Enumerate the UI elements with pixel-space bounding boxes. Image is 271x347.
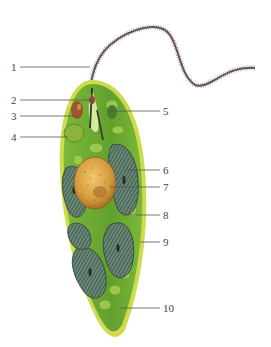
euglena-diagram <box>0 0 271 347</box>
nucleus <box>74 157 116 209</box>
label-4: 4 <box>11 132 17 143</box>
label-5: 5 <box>163 106 169 117</box>
label-7: 7 <box>163 182 169 193</box>
label-6: 6 <box>163 165 169 176</box>
label-3: 3 <box>11 111 17 122</box>
label-8: 8 <box>163 210 169 221</box>
nucleolus <box>93 186 107 198</box>
contractile-vacuole <box>64 124 84 142</box>
label-2: 2 <box>11 95 17 106</box>
label-10: 10 <box>163 303 174 314</box>
label-1: 1 <box>11 62 17 73</box>
label-9: 9 <box>163 237 169 248</box>
